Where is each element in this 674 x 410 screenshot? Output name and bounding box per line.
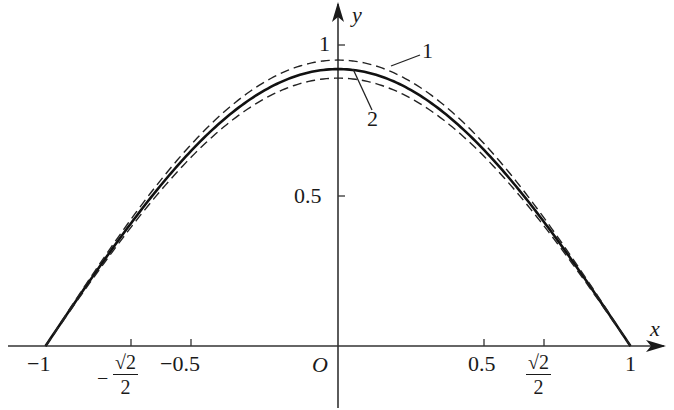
x-tick-label-neg1: −1 — [27, 353, 50, 375]
plot-area — [0, 0, 674, 410]
y-tick-label-1: 1 — [319, 33, 330, 55]
x-tick-label-sqrt2-over-2: √2 2 — [526, 352, 551, 397]
x-tick-label-neg0-5: −0.5 — [160, 353, 200, 375]
x-tick-label-1: 1 — [625, 353, 636, 375]
neg-sqrt2-minus: − — [97, 367, 108, 390]
x-tick-label-0-5: 0.5 — [468, 353, 496, 375]
x-tick-label-neg-sqrt2-over-2: √2 2 — [113, 352, 138, 397]
fraction-numerator: √2 — [113, 352, 138, 375]
x-axis-label: x — [650, 318, 660, 340]
curve-label-1: 1 — [422, 40, 433, 62]
y-ticks — [338, 45, 345, 196]
fraction-numerator: √2 — [526, 352, 551, 375]
fraction-denominator: 2 — [113, 375, 138, 397]
leader-line-1 — [391, 55, 420, 66]
origin-label: O — [312, 354, 328, 376]
curve-label-2: 2 — [367, 108, 378, 130]
y-axis-label: y — [352, 4, 362, 26]
y-tick-label-0-5: 0.5 — [294, 185, 322, 207]
fraction-denominator: 2 — [526, 375, 551, 397]
leader-line-2 — [353, 69, 372, 110]
